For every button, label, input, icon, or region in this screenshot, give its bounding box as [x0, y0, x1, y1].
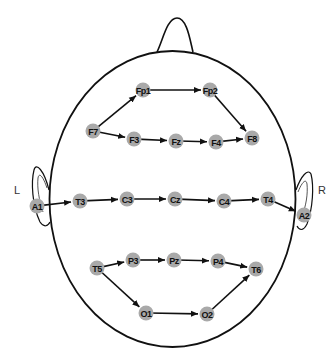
eeg-montage-diagram: [0, 0, 336, 363]
electrode-pz: Pz: [167, 253, 182, 268]
electrode-label: Cz: [170, 194, 180, 204]
arrow-fp2-to-f8: [212, 92, 246, 131]
arrow-f7-to-fp1: [95, 96, 136, 129]
electrode-label: T5: [92, 263, 102, 273]
electrode-p4: P4: [211, 254, 226, 269]
electrode-a2: A2: [297, 208, 312, 223]
electrode-cz: Cz: [168, 192, 183, 207]
electrode-label: T6: [251, 264, 261, 274]
electrode-label: Pz: [169, 255, 179, 265]
electrode-t6: T6: [249, 262, 264, 277]
arrow-t3-to-c3: [83, 199, 118, 200]
electrode-label: Fp2: [203, 85, 218, 95]
electrode-label: T3: [75, 196, 85, 206]
electrode-fp1: Fp1: [136, 83, 151, 98]
electrode-label: F4: [211, 137, 221, 147]
electrode-label: T4: [263, 194, 273, 204]
electrode-label: F7: [88, 126, 98, 136]
arrow-c4-to-t4: [227, 199, 259, 200]
electrode-label: F8: [247, 133, 257, 143]
electrode-f8: F8: [245, 131, 260, 146]
electrode-label: P4: [213, 256, 223, 266]
electrode-t5: T5: [90, 261, 105, 276]
electrode-label: Fz: [172, 136, 181, 146]
electrode-c4: C4: [217, 194, 232, 209]
arrow-a1-to-t3: [40, 202, 71, 206]
electrode-c3: C3: [120, 192, 135, 207]
electrode-label: O1: [140, 308, 151, 318]
nose-outline: [157, 18, 193, 52]
electrode-label: O2: [201, 309, 212, 319]
electrode-label: C4: [219, 196, 230, 206]
electrode-label: A1: [32, 201, 43, 211]
electrode-label: P3: [128, 255, 138, 265]
electrode-label: A2: [299, 210, 310, 220]
electrode-a1: A1: [30, 199, 45, 214]
electrode-p3: P3: [126, 253, 141, 268]
electrode-fp2: Fp2: [203, 83, 218, 98]
electrode-o1: O1: [139, 306, 154, 321]
arrow-t5-to-o1: [99, 270, 139, 307]
electrode-f4: F4: [209, 135, 224, 150]
electrode-t4: T4: [261, 192, 276, 207]
electrode-f7: F7: [86, 124, 101, 139]
electrode-f3: F3: [127, 132, 142, 147]
arrow-cz-to-c4: [178, 199, 215, 201]
electrode-t3: T3: [73, 194, 88, 209]
arrow-o2-to-t6: [209, 275, 249, 312]
electrode-label: C3: [122, 194, 133, 204]
arrow-o1-to-o2: [149, 313, 198, 314]
left-side-label: L: [14, 184, 20, 196]
electrode-fz: Fz: [169, 134, 184, 149]
electrode-label: Fp1: [136, 85, 151, 95]
arrow-pz-to-p4: [177, 260, 209, 261]
electrode-o2: O2: [200, 307, 215, 322]
electrode-label: F3: [129, 134, 139, 144]
right-side-label: R: [318, 184, 326, 196]
